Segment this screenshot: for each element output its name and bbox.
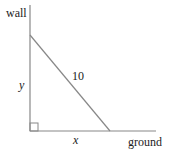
right-angle-marker bbox=[30, 123, 38, 131]
height-label: y bbox=[18, 78, 25, 92]
hypotenuse-label: 10 bbox=[72, 69, 84, 83]
ladder-diagram: wall ground y x 10 bbox=[0, 0, 170, 154]
ground-label: ground bbox=[128, 135, 162, 149]
wall-label: wall bbox=[6, 6, 27, 20]
base-label: x bbox=[72, 133, 79, 147]
ladder-line bbox=[30, 35, 110, 131]
